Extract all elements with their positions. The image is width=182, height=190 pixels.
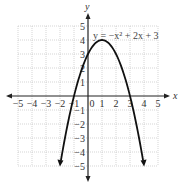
svg-text:−3: −3: [74, 133, 85, 144]
svg-text:5: 5: [80, 21, 85, 32]
svg-text:1: 1: [80, 77, 85, 88]
svg-text:4: 4: [142, 98, 147, 109]
svg-text:−5: −5: [74, 161, 85, 172]
svg-text:−4: −4: [27, 98, 38, 109]
svg-text:5: 5: [156, 98, 161, 109]
y-axis-label: y: [84, 1, 90, 12]
svg-text:1: 1: [100, 98, 105, 109]
svg-text:−5: −5: [13, 98, 24, 109]
curve-left-arrow-icon: [57, 159, 63, 166]
svg-text:−2: −2: [55, 98, 66, 109]
svg-text:4: 4: [80, 35, 85, 46]
svg-text:−1: −1: [74, 105, 85, 116]
parabola-chart: x y −5−4−3−2−101234554321−1−2−3−4−5 y = …: [0, 0, 182, 190]
svg-text:−3: −3: [41, 98, 52, 109]
svg-text:−2: −2: [74, 119, 85, 130]
curve-right-arrow-icon: [141, 159, 147, 166]
svg-text:−4: −4: [74, 147, 85, 158]
x-axis-left-arrow-icon: [6, 94, 12, 99]
svg-text:3: 3: [80, 49, 85, 60]
svg-text:0: 0: [90, 98, 95, 109]
svg-text:2: 2: [114, 98, 119, 109]
x-axis-right-arrow-icon: [164, 94, 170, 99]
y-axis-down-arrow-icon: [86, 176, 91, 182]
x-axis-label: x: [172, 90, 178, 101]
equation-label: y = −x² + 2x + 3: [93, 30, 159, 41]
y-axis-up-arrow-icon: [86, 13, 91, 19]
